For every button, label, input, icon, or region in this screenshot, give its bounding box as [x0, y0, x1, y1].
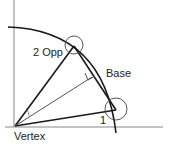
ray-to-opp: [15, 46, 74, 126]
right-angle-mark: [85, 73, 95, 80]
label-opp: 2 Opp: [33, 46, 63, 58]
label-one: 1: [100, 114, 106, 126]
opp-point-circle: [65, 36, 83, 54]
label-vertex: Vertex: [14, 130, 46, 142]
angle-arc: [27, 110, 29, 116]
label-base: Base: [106, 67, 131, 79]
geometry-diagram: 2 Opp Base 1 Vertex: [0, 0, 169, 144]
bisector-line: [15, 77, 92, 126]
